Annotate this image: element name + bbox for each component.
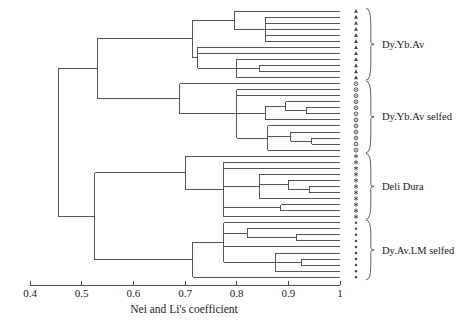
leaf-marker-dot [355, 276, 358, 279]
leaf-marker-triangle [354, 69, 358, 73]
leaf-marker-triangle [354, 15, 358, 19]
leaf-marker-asterisk [354, 160, 358, 164]
leaf-marker-triangle [354, 33, 358, 37]
group-bracket [366, 81, 374, 153]
axis-tick-label: 0.8 [230, 287, 244, 299]
leaf-marker-triangle [354, 75, 358, 79]
axis-tick-label: 0.4 [23, 287, 37, 299]
leaf-marker-dot [355, 258, 358, 261]
leaf-marker-dot [355, 234, 358, 237]
dendrogram-figure: 0.40.50.60.70.80.91 Dy.Yb.AvDy.Yb.Av sel… [0, 0, 459, 324]
group-bracket [366, 8, 374, 80]
axis-tick-label: 0.9 [281, 287, 295, 299]
group-labels: Dy.Yb.AvDy.Yb.Av selfedDeli DuraDy.Av.LM… [382, 39, 455, 256]
axis-title: Nei and Li's coefficient [130, 303, 238, 315]
group-label-text: Dy.Yb.Av [382, 39, 425, 50]
group-brackets [366, 8, 374, 279]
leaf-marker-triangle [354, 9, 358, 13]
leaf-marker-circle-center [355, 149, 356, 150]
leaf-marker-dot [355, 270, 358, 273]
leaf-marker-circle-center [355, 83, 356, 84]
leaf-marker-asterisk [354, 166, 358, 170]
leaf-marker-triangle [354, 45, 358, 49]
leaf-marker-asterisk [354, 215, 358, 219]
axis-tick-label: 0.7 [178, 287, 192, 299]
leaf-marker-dot [355, 264, 358, 267]
leaf-marker-triangle [354, 51, 358, 55]
leaf-marker-dot [355, 228, 358, 231]
axis-tick-label: 1 [337, 287, 343, 299]
leaf-marker-triangle [354, 27, 358, 31]
leaf-marker-dot [355, 240, 358, 243]
leaf-marker-asterisk [354, 209, 358, 213]
leaf-marker-asterisk [354, 203, 358, 207]
leaf-marker-dot [355, 222, 358, 225]
leaf-marker-circle-center [355, 89, 356, 90]
leaf-marker-asterisk [354, 190, 358, 194]
group-label-text: Deli Dura [382, 181, 424, 192]
leaf-marker-asterisk [354, 154, 358, 158]
leaf-marker-circle-center [355, 131, 356, 132]
leaf-marker-circle-center [355, 101, 356, 102]
leaf-marker-asterisk [354, 172, 358, 176]
leaf-marker-circle-center [355, 119, 356, 120]
leaf-marker-circle-center [355, 113, 356, 114]
leaf-marker-circle-center [355, 125, 356, 126]
leaf-marker-circle-center [355, 95, 356, 96]
dendrogram-plot: 0.40.50.60.70.80.91 Dy.Yb.AvDy.Yb.Av sel… [0, 0, 459, 324]
leaf-marker-triangle [354, 63, 358, 67]
leaf-marker-triangle [354, 39, 358, 43]
group-bracket [366, 220, 374, 280]
x-axis: 0.40.50.60.70.80.91 [23, 281, 343, 299]
leaf-marker-dot [355, 246, 358, 249]
leaf-marker-triangle [354, 21, 358, 25]
leaf-marker-asterisk [354, 184, 358, 188]
leaf-marker-triangle [354, 57, 358, 61]
group-label-text: Dy.Yb.Av selfed [382, 111, 453, 122]
axis-tick-label: 0.6 [126, 287, 140, 299]
leaf-marker-asterisk [354, 178, 358, 182]
leaf-markers [354, 9, 358, 279]
group-label-text: Dy.Av.LM selfed [382, 245, 455, 256]
leaf-marker-circle-center [355, 143, 356, 144]
axis-tick-label: 0.5 [75, 287, 89, 299]
dendrogram-branches [58, 11, 340, 277]
leaf-marker-circle-center [355, 137, 356, 138]
leaf-marker-circle-center [355, 107, 356, 108]
group-bracket [366, 154, 374, 220]
leaf-marker-dot [355, 252, 358, 255]
leaf-marker-asterisk [354, 196, 358, 200]
